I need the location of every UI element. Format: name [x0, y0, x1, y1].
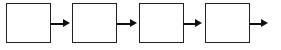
arrow-2-icon [117, 22, 136, 25]
arrow-4-icon [249, 22, 269, 25]
arrow-1-icon [51, 22, 70, 25]
box-3 [139, 3, 184, 43]
box-4 [205, 3, 250, 43]
box-2 [72, 3, 117, 43]
box-1 [6, 3, 51, 43]
arrow-3-icon [183, 22, 202, 25]
